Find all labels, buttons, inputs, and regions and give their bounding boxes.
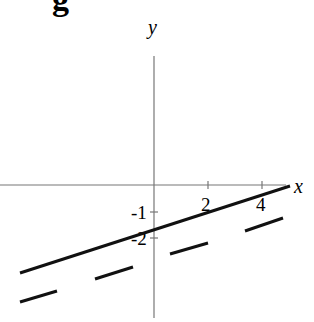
cropped-title-glyph: g [52, 0, 69, 17]
x-axis-label: x [293, 175, 303, 197]
graph: g y x 2 4 -1 -2 [0, 0, 314, 322]
y-tick-label: -1 [131, 202, 147, 223]
y-axis-label: y [146, 16, 157, 39]
y-tick-label: -2 [131, 228, 147, 249]
